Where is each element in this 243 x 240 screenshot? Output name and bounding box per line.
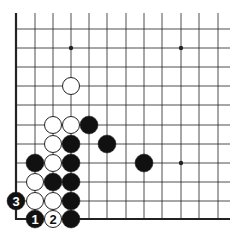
black-stone xyxy=(80,116,98,134)
stone-icon xyxy=(62,154,80,172)
stone-icon xyxy=(135,154,153,172)
white-stone xyxy=(45,155,62,172)
star-point-icon xyxy=(179,161,183,165)
stone-icon xyxy=(27,174,44,191)
black-stone xyxy=(62,192,80,210)
black-stone: 1 xyxy=(26,210,44,228)
stone-icon xyxy=(27,193,44,210)
stone-icon xyxy=(45,136,62,153)
black-stone xyxy=(26,154,44,172)
stone-icon xyxy=(80,116,98,134)
white-stone xyxy=(27,174,44,191)
black-stone xyxy=(62,135,80,153)
white-stone xyxy=(45,136,62,153)
stone-icon xyxy=(62,210,80,228)
black-stone xyxy=(98,135,116,153)
white-stone xyxy=(63,78,80,95)
black-stone xyxy=(135,154,153,172)
white-stone xyxy=(63,117,80,134)
stone-icon xyxy=(45,155,62,172)
black-stone xyxy=(62,173,80,191)
stone-icon xyxy=(45,193,62,210)
stone-icon xyxy=(63,117,80,134)
star-point-icon xyxy=(179,46,183,50)
stone-icon xyxy=(98,135,116,153)
stone-icon xyxy=(26,154,44,172)
go-board: 312 xyxy=(0,0,243,240)
white-stone xyxy=(45,117,62,134)
white-stone xyxy=(45,193,62,210)
move-number: 3 xyxy=(12,194,19,209)
stone-icon xyxy=(45,117,62,134)
stone-icon xyxy=(63,78,80,95)
stone-icon xyxy=(62,173,80,191)
black-stone: 3 xyxy=(7,192,25,210)
move-number: 2 xyxy=(49,212,56,227)
black-stone xyxy=(62,210,80,228)
stone-icon xyxy=(44,173,62,191)
stones: 312 xyxy=(7,78,153,229)
move-number: 1 xyxy=(31,212,38,227)
black-stone xyxy=(62,154,80,172)
star-point-icon xyxy=(69,46,73,50)
stone-icon xyxy=(62,192,80,210)
stone-icon xyxy=(62,135,80,153)
white-stone: 2 xyxy=(45,211,62,228)
white-stone xyxy=(27,193,44,210)
black-stone xyxy=(44,173,62,191)
